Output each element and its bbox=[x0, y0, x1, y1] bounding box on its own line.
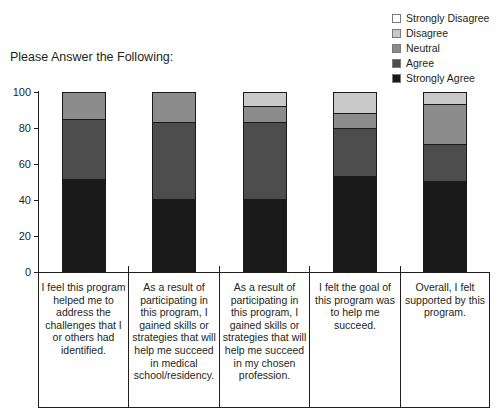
bar-slot bbox=[129, 92, 219, 272]
legend-swatch-icon bbox=[392, 29, 401, 38]
bar-segment[interactable] bbox=[244, 200, 286, 271]
y-axis-tick-mark bbox=[34, 164, 38, 165]
legend-item: Strongly Agree bbox=[392, 71, 489, 86]
x-axis-tick-mark bbox=[219, 266, 220, 272]
bar-segment[interactable] bbox=[153, 93, 195, 123]
stacked-bar[interactable] bbox=[243, 92, 287, 272]
bar-segment[interactable] bbox=[244, 93, 286, 107]
category-slot: I felt the goal of this program was to h… bbox=[309, 272, 400, 408]
category-slot: As a result of participating in this pro… bbox=[128, 272, 219, 408]
bar-segment[interactable] bbox=[153, 123, 195, 200]
y-axis-tick-mark bbox=[34, 92, 38, 93]
bar-segment[interactable] bbox=[424, 182, 466, 271]
chart-legend: Strongly DisagreeDisagreeNeutralAgreeStr… bbox=[392, 11, 489, 86]
legend-item: Agree bbox=[392, 56, 489, 71]
legend-item: Neutral bbox=[392, 41, 489, 56]
legend-item: Strongly Disagree bbox=[392, 11, 489, 26]
x-axis-tick-mark bbox=[128, 266, 129, 272]
x-axis-category-label: Overall, I felt supported by this progra… bbox=[402, 281, 488, 407]
bar-segment[interactable] bbox=[334, 129, 376, 177]
bar-slot bbox=[39, 92, 129, 272]
y-axis-tick-mark bbox=[34, 128, 38, 129]
legend-swatch-icon bbox=[392, 74, 401, 83]
legend-swatch-icon bbox=[392, 59, 401, 68]
legend-item: Disagree bbox=[392, 26, 489, 41]
legend-item-label: Disagree bbox=[406, 28, 448, 39]
bar-slot bbox=[310, 92, 400, 272]
x-axis-category-label: I feel this program helped me to address… bbox=[41, 281, 127, 407]
bar-segment[interactable] bbox=[334, 114, 376, 128]
bar-segment[interactable] bbox=[63, 120, 105, 181]
bar-segment[interactable] bbox=[244, 123, 286, 200]
x-axis-category-label: As a result of participating in this pro… bbox=[222, 281, 308, 407]
bar-segment[interactable] bbox=[334, 177, 376, 271]
category-slot: Overall, I felt supported by this progra… bbox=[400, 272, 490, 408]
y-axis-tick-label: 40 bbox=[19, 194, 31, 206]
plot-area: 020406080100 bbox=[38, 92, 490, 272]
y-axis-tick-label: 80 bbox=[19, 122, 31, 134]
bar-segment[interactable] bbox=[424, 93, 466, 105]
stacked-bar[interactable] bbox=[152, 92, 196, 272]
bar-segment[interactable] bbox=[424, 145, 466, 182]
category-axis: I feel this program helped me to address… bbox=[38, 272, 490, 408]
bar-segment[interactable] bbox=[63, 93, 105, 120]
bar-slot bbox=[400, 92, 490, 272]
y-axis-tick-label: 60 bbox=[19, 158, 31, 170]
y-axis-tick-mark bbox=[34, 200, 38, 201]
bar-slot bbox=[219, 92, 309, 272]
x-axis-category-label: As a result of participating in this pro… bbox=[131, 281, 217, 407]
y-axis-tick-mark bbox=[34, 236, 38, 237]
x-axis-category-label: I felt the goal of this program was to h… bbox=[312, 281, 398, 407]
x-axis-tick-mark bbox=[38, 266, 39, 272]
x-axis-tick-mark bbox=[400, 266, 401, 272]
bar-series-group bbox=[39, 92, 490, 272]
stacked-bar[interactable] bbox=[423, 92, 467, 272]
legend-item-label: Neutral bbox=[406, 43, 440, 54]
y-axis-tick-label: 0 bbox=[25, 266, 31, 278]
legend-item-label: Strongly Disagree bbox=[406, 13, 489, 24]
y-axis-tick-label: 100 bbox=[13, 86, 31, 98]
stacked-bar[interactable] bbox=[62, 92, 106, 272]
legend-item-label: Strongly Agree bbox=[406, 73, 475, 84]
chart-title: Please Answer the Following: bbox=[10, 50, 173, 64]
stacked-bar[interactable] bbox=[333, 92, 377, 272]
bar-segment[interactable] bbox=[334, 93, 376, 114]
bar-segment[interactable] bbox=[63, 180, 105, 271]
bar-segment[interactable] bbox=[424, 105, 466, 144]
category-slot: I feel this program helped me to address… bbox=[38, 272, 128, 408]
bar-segment[interactable] bbox=[244, 107, 286, 123]
legend-item-label: Agree bbox=[406, 58, 434, 69]
y-axis-tick-label: 20 bbox=[19, 230, 31, 242]
category-slot: As a result of participating in this pro… bbox=[219, 272, 309, 408]
legend-swatch-icon bbox=[392, 44, 401, 53]
x-axis-tick-mark bbox=[309, 266, 310, 272]
bar-segment[interactable] bbox=[153, 200, 195, 271]
legend-swatch-icon bbox=[392, 14, 401, 23]
